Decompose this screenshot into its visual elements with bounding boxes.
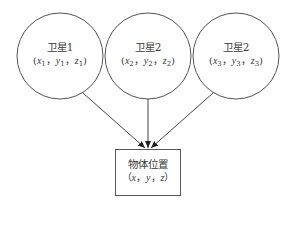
arrow-satellite-1-to-target bbox=[83, 93, 145, 148]
satellite-3-title: 卫星2 bbox=[193, 40, 279, 54]
target-coords: （x，y，z） bbox=[115, 171, 181, 185]
target-title: 物体位置 bbox=[115, 157, 181, 171]
satellite-2-coords: (x2，y2，z2) bbox=[105, 54, 191, 71]
satellite-3-label: 卫星2 (x3，y3，z3) bbox=[193, 40, 279, 71]
arrow-satellite-3-to-target bbox=[151, 93, 213, 148]
satellite-3-coords: (x3，y3，z3) bbox=[193, 54, 279, 71]
satellite-1-label: 卫星1 (x1，y1，z1) bbox=[17, 40, 103, 71]
satellite-1-coords: (x1，y1，z1) bbox=[17, 54, 103, 71]
target-label: 物体位置 （x，y，z） bbox=[115, 157, 181, 185]
satellite-1-title: 卫星1 bbox=[17, 40, 103, 54]
satellite-2-label: 卫星2 (x2，y2，z2) bbox=[105, 40, 191, 71]
satellite-2-title: 卫星2 bbox=[105, 40, 191, 54]
